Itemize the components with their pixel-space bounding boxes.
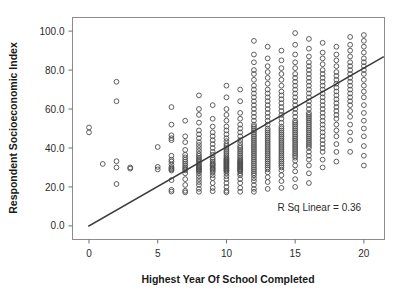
- y-axis-title: Respondent Socioeconomic Index: [7, 42, 19, 214]
- chart-canvas: 0.020.040.060.080.0100.0 05101520 R Sq L…: [0, 0, 409, 299]
- y-tick-label: 20.0: [45, 182, 65, 193]
- scatter-plot-figure: 0.020.040.060.080.0100.0 05101520 R Sq L…: [0, 0, 409, 299]
- x-axis-title: Highest Year Of School Completed: [141, 273, 314, 285]
- chart-annotations: R Sq Linear = 0.36: [277, 202, 361, 213]
- y-tick-label: 40.0: [45, 143, 65, 154]
- y-tick-label: 60.0: [45, 104, 65, 115]
- x-tick-label: 10: [221, 248, 233, 259]
- x-tick-label: 15: [290, 248, 302, 259]
- y-tick-label: 80.0: [45, 65, 65, 76]
- x-tick-label: 20: [358, 248, 370, 259]
- x-tick-label: 0: [86, 248, 92, 259]
- y-tick-label: 0.0: [51, 220, 65, 231]
- r-squared-annotation: R Sq Linear = 0.36: [277, 202, 361, 213]
- x-tick-label: 5: [155, 248, 161, 259]
- y-tick-label: 100.0: [39, 26, 64, 37]
